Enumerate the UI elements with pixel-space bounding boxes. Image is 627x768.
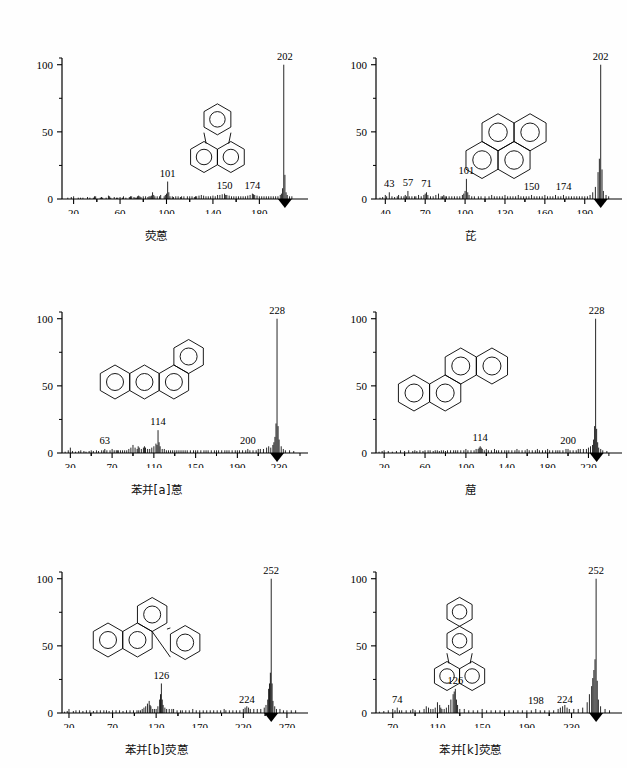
svg-text:0: 0 (362, 193, 368, 205)
molecular-structure (93, 598, 200, 660)
svg-text:100: 100 (351, 313, 368, 325)
svg-text:70: 70 (107, 721, 119, 728)
molecular-structure (191, 104, 245, 173)
spectrum-trace (379, 319, 611, 453)
svg-text:60: 60 (115, 207, 127, 214)
svg-text:174: 174 (556, 181, 573, 192)
panel-caption: 苯并[b]荧蒽 (0, 741, 313, 757)
plot-area: 0501007011015019023074126198224252 (314, 528, 627, 728)
svg-text:50: 50 (356, 640, 368, 652)
molecular-structure (466, 114, 546, 179)
svg-text:140: 140 (498, 461, 515, 468)
spectrum-panel: 0501002070120170220270126224252苯并[b]荧蒽 (0, 528, 313, 768)
svg-text:100: 100 (458, 461, 475, 468)
svg-text:202: 202 (277, 51, 293, 62)
svg-text:43: 43 (384, 178, 395, 189)
mass-spectra-figure: 0501002060100140180101150174202荧蒽0501004… (0, 0, 627, 768)
svg-text:150: 150 (524, 181, 540, 192)
svg-text:252: 252 (263, 565, 279, 576)
svg-text:57: 57 (403, 177, 414, 188)
svg-text:0: 0 (48, 193, 54, 205)
svg-text:224: 224 (557, 694, 574, 705)
svg-text:0: 0 (48, 447, 54, 459)
molecular-structure (100, 340, 203, 400)
spectrum-panel: 0501002060100140180220114200228䓛 (314, 268, 627, 524)
spectrum-panel: 0501004070100130160190435771101150174202… (314, 14, 627, 270)
svg-text:174: 174 (245, 180, 262, 191)
svg-text:150: 150 (187, 461, 204, 468)
svg-text:160: 160 (537, 207, 554, 214)
svg-text:150: 150 (474, 721, 491, 728)
svg-text:230: 230 (563, 721, 580, 728)
svg-text:71: 71 (421, 178, 432, 189)
svg-text:202: 202 (593, 51, 609, 62)
svg-text:170: 170 (191, 721, 208, 728)
svg-text:230: 230 (271, 461, 288, 468)
molecular-ion-marker (589, 713, 603, 722)
spectrum-trace (379, 579, 609, 713)
svg-text:180: 180 (539, 461, 556, 468)
plot-area: 050100307011015019023063114200228 (0, 268, 313, 468)
plot-area: 0501002060100140180101150174202 (0, 14, 313, 214)
svg-text:50: 50 (42, 640, 54, 652)
plot-area: 0501002060100140180220114200228 (314, 268, 627, 468)
svg-text:228: 228 (589, 305, 605, 316)
svg-text:190: 190 (576, 207, 593, 214)
svg-text:190: 190 (519, 721, 536, 728)
svg-text:126: 126 (154, 670, 170, 681)
svg-text:70: 70 (387, 721, 399, 728)
spectrum-trace (65, 319, 294, 453)
svg-text:20: 20 (379, 461, 391, 468)
svg-text:50: 50 (356, 126, 368, 138)
svg-text:140: 140 (205, 207, 222, 214)
molecular-ion-marker (594, 199, 608, 208)
svg-text:101: 101 (459, 165, 475, 176)
svg-text:70: 70 (420, 207, 432, 214)
svg-text:20: 20 (68, 207, 80, 214)
svg-text:20: 20 (63, 721, 75, 728)
svg-text:200: 200 (560, 435, 576, 446)
svg-text:101: 101 (160, 168, 176, 179)
svg-text:100: 100 (351, 573, 368, 585)
spectrum-trace (380, 65, 609, 199)
svg-text:198: 198 (528, 695, 544, 706)
svg-text:130: 130 (497, 207, 514, 214)
svg-text:100: 100 (37, 59, 54, 71)
spectrum-panel: 0501007011015019023074126198224252苯并[k]荧… (314, 528, 627, 768)
svg-text:100: 100 (37, 573, 54, 585)
svg-text:50: 50 (42, 126, 54, 138)
svg-text:100: 100 (457, 207, 474, 214)
svg-text:70: 70 (107, 461, 119, 468)
spectrum-panel: 050100307011015019023063114200228苯并[a]蒽 (0, 268, 313, 524)
plot-area: 0501004070100130160190435771101150174202 (314, 14, 627, 214)
svg-text:150: 150 (217, 180, 233, 191)
svg-text:63: 63 (100, 435, 111, 446)
molecular-ion-marker (278, 199, 292, 208)
svg-text:126: 126 (447, 675, 463, 686)
panel-caption: 芘 (314, 227, 627, 243)
svg-text:0: 0 (362, 707, 368, 719)
svg-text:220: 220 (235, 721, 252, 728)
svg-text:40: 40 (380, 207, 392, 214)
svg-text:270: 270 (279, 721, 296, 728)
spectrum-panel: 0501002060100140180101150174202荧蒽 (0, 14, 313, 270)
plot-area: 0501002070120170220270126224252 (0, 528, 313, 728)
svg-text:30: 30 (65, 461, 77, 468)
svg-text:200: 200 (240, 435, 256, 446)
svg-text:60: 60 (420, 461, 432, 468)
svg-text:50: 50 (42, 380, 54, 392)
svg-text:100: 100 (37, 313, 54, 325)
svg-text:120: 120 (148, 721, 165, 728)
svg-text:0: 0 (48, 707, 54, 719)
svg-text:50: 50 (356, 380, 368, 392)
panel-caption: 苯并[a]蒽 (0, 481, 313, 497)
molecular-ion-marker (264, 713, 278, 722)
svg-text:100: 100 (158, 207, 175, 214)
svg-text:190: 190 (229, 461, 246, 468)
svg-text:74: 74 (392, 694, 403, 705)
svg-text:228: 228 (269, 305, 285, 316)
svg-text:110: 110 (146, 461, 163, 468)
panel-caption: 䓛 (314, 481, 627, 497)
svg-text:220: 220 (580, 461, 597, 468)
svg-text:114: 114 (150, 416, 166, 427)
